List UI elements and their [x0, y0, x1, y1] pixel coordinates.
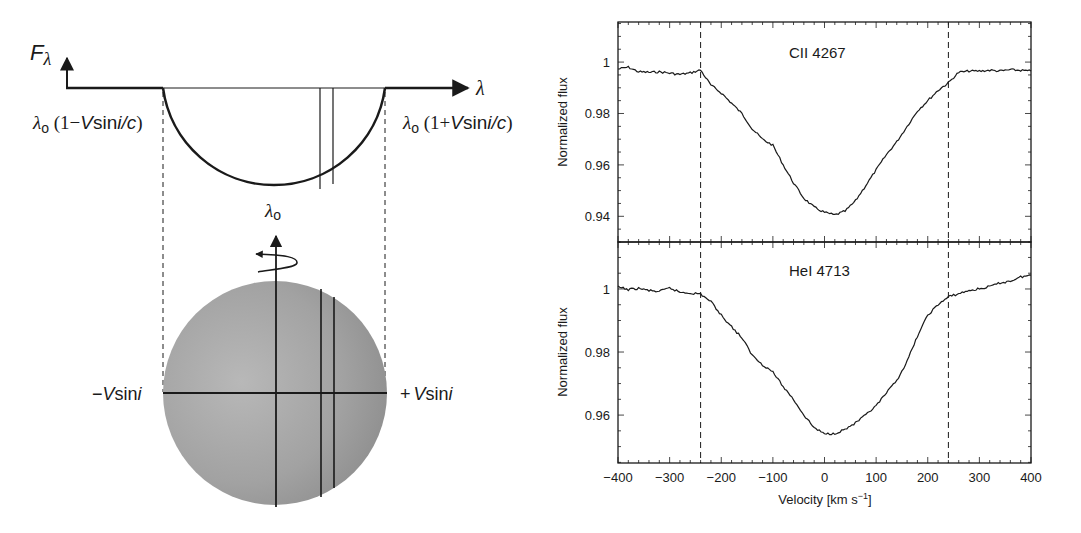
x-tick-label: 300 [969, 470, 991, 485]
right-edge-wavelength-label: λo (1+Vsini/c) [402, 112, 513, 136]
x-tick-label: −200 [707, 470, 736, 485]
rotational-broadening-diagram: Fλ λ λo (1−Vsini/c) λo (1+Vsini/c) λo −V… [30, 40, 513, 507]
spectral-line-plots: 0.940.960.9810.960.981−400−300−200−10001… [555, 22, 1042, 507]
y-tick-label: 0.96 [585, 158, 610, 173]
wavelength-axis-label: λ [475, 77, 485, 99]
flux-axis-label: Fλ [30, 40, 51, 69]
minus-vsini-label: −Vsini [92, 384, 143, 404]
spectrum-line [618, 275, 1031, 435]
x-tick-label: −100 [758, 470, 787, 485]
figure: Fλ λ λo (1−Vsini/c) λo (1+Vsini/c) λo −V… [0, 0, 1081, 533]
y-tick-label: 0.98 [585, 345, 610, 360]
plus-vsini-label: +Vsini [400, 384, 454, 404]
x-tick-label: −300 [655, 470, 684, 485]
y-tick-label: 1 [603, 282, 610, 297]
spectrum-line [618, 66, 1031, 214]
top-y-axis-label: Normalized flux [555, 77, 570, 167]
y-tick-label: 0.96 [585, 408, 610, 423]
y-tick-label: 1 [603, 55, 610, 70]
bottom-panel-title: HeI 4713 [789, 262, 850, 279]
x-tick-label: 0 [821, 470, 828, 485]
left-edge-wavelength-label: λo (1−Vsini/c) [32, 112, 143, 136]
line-profile [163, 88, 385, 185]
x-tick-label: 400 [1020, 470, 1042, 485]
bottom-y-axis-label: Normalized flux [555, 307, 570, 397]
x-tick-label: −400 [603, 470, 632, 485]
x-tick-label: 100 [865, 470, 887, 485]
center-wavelength-label: λo [264, 200, 281, 223]
axis-ticks: 0.940.960.9810.960.981−400−300−200−10001… [585, 22, 1042, 485]
x-axis-label: Velocity [km s−1] [778, 491, 871, 507]
x-tick-label: 200 [917, 470, 939, 485]
y-tick-label: 0.98 [585, 106, 610, 121]
top-panel-title: CII 4267 [789, 44, 846, 61]
y-tick-label: 0.94 [585, 209, 610, 224]
